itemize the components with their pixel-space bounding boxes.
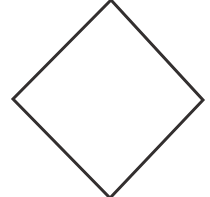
figure-canvas — [0, 0, 210, 197]
canvas-background — [0, 0, 210, 197]
diamond-figure-svg — [0, 0, 210, 197]
